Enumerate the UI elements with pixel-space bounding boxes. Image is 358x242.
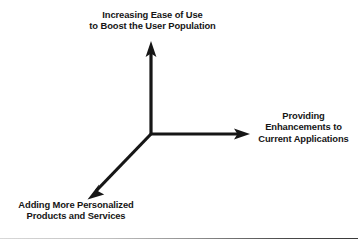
label-vertical-axis: Increasing Ease of Use to Boost the User… xyxy=(0,9,305,32)
label-horizontal-line-2: Enhancements to xyxy=(249,121,358,132)
label-horizontal-line-1: Providing xyxy=(249,110,358,121)
label-diagonal-line-1: Adding More Personalized xyxy=(0,199,152,210)
horizontal-axis-arrow xyxy=(151,129,250,140)
label-vertical-line-2: to Boost the User Population xyxy=(0,20,305,31)
page-edge-line xyxy=(0,238,358,239)
label-diagonal-line-2: Products and Services xyxy=(0,210,152,221)
diagram-canvas: Increasing Ease of Use to Boost the User… xyxy=(0,0,358,242)
label-vertical-line-1: Increasing Ease of Use xyxy=(0,9,305,20)
diagonal-axis-arrow xyxy=(88,134,152,200)
label-horizontal-line-3: Current Applications xyxy=(249,133,358,144)
label-horizontal-axis: Providing Enhancements to Current Applic… xyxy=(249,110,358,144)
vertical-axis-arrow xyxy=(146,41,157,134)
label-diagonal-axis: Adding More Personalized Products and Se… xyxy=(0,199,152,222)
